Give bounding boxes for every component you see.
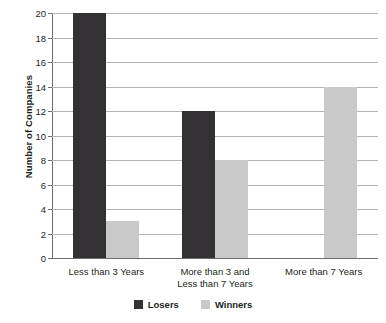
plot-inner: 20181614121086420	[52, 13, 378, 258]
y-tick-mark	[48, 87, 52, 88]
y-tick-label: 2	[18, 229, 46, 240]
y-tick-label: 10	[18, 131, 46, 142]
bar-chart: Number of Companies 20181614121086420 Le…	[0, 0, 386, 323]
winners-swatch	[201, 300, 210, 309]
y-tick-label: 4	[18, 204, 46, 215]
legend-label: Winners	[215, 299, 252, 310]
legend-label: Losers	[148, 299, 179, 310]
plot-area: 20181614121086420	[52, 13, 378, 258]
legend-item-losers[interactable]: Losers	[134, 299, 179, 310]
bar-winners-2	[324, 87, 357, 259]
y-tick-label: 12	[18, 106, 46, 117]
y-tick-label: 20	[18, 8, 46, 19]
y-tick-label: 8	[18, 155, 46, 166]
y-tick-mark	[48, 160, 52, 161]
y-tick-mark	[48, 136, 52, 137]
y-tick-label: 6	[18, 180, 46, 191]
gridline	[52, 258, 378, 259]
x-axis-label-2: More than 7 Years	[254, 266, 386, 278]
y-tick-mark	[48, 209, 52, 210]
y-tick-label: 16	[18, 57, 46, 68]
y-tick-mark	[48, 38, 52, 39]
losers-swatch	[134, 300, 143, 309]
y-tick-label: 0	[18, 253, 46, 264]
y-tick-label: 14	[18, 82, 46, 93]
y-tick-mark	[48, 258, 52, 259]
legend: LosersWinners	[0, 299, 386, 310]
bar-winners-0	[106, 221, 139, 258]
bar-winners-1	[215, 160, 248, 258]
y-tick-mark	[48, 111, 52, 112]
y-tick-label: 18	[18, 33, 46, 44]
y-tick-mark	[48, 62, 52, 63]
bar-losers-0	[73, 13, 106, 258]
y-tick-mark	[48, 185, 52, 186]
y-tick-mark	[48, 13, 52, 14]
legend-item-winners[interactable]: Winners	[201, 299, 252, 310]
y-tick-mark	[48, 234, 52, 235]
bar-losers-1	[182, 111, 215, 258]
